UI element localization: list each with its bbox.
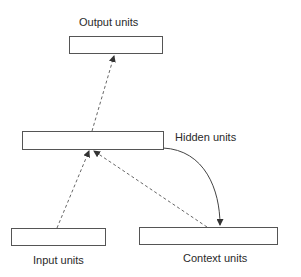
edge-input-to-hidden <box>57 151 89 228</box>
hidden-units-box <box>22 131 164 150</box>
output-units-box <box>69 36 163 54</box>
output-units-label: Output units <box>79 16 138 28</box>
hidden-units-label: Hidden units <box>175 131 236 143</box>
edge-context-to-hidden <box>94 151 207 227</box>
context-units-box <box>139 227 278 245</box>
input-units-box <box>11 228 106 246</box>
edge-hidden-to-output <box>92 56 114 131</box>
edge-hidden-to-context <box>163 148 220 225</box>
input-units-label: Input units <box>33 254 84 266</box>
recurrent-network-diagram: Output units Hidden units Input units Co… <box>0 0 301 277</box>
context-units-label: Context units <box>183 252 247 264</box>
